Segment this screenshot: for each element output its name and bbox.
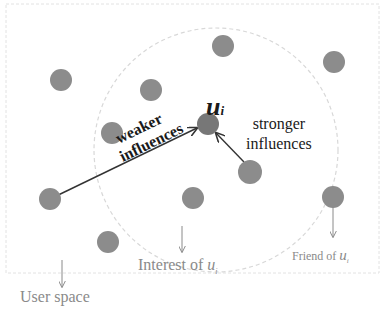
stronger-influences-label: stronger influences: [246, 114, 312, 154]
user-node: [212, 35, 234, 57]
friend-label: Friend of ui: [292, 247, 349, 265]
friend-node-strong: [238, 160, 262, 184]
friend-node: [322, 186, 344, 208]
center-node-var: u: [206, 92, 220, 121]
stronger-label-line1: stronger: [246, 114, 312, 134]
interest-label-sub: i: [215, 267, 217, 276]
user-space-box: [6, 4, 379, 273]
user-node: [182, 187, 204, 209]
user-space-label: User space: [20, 288, 90, 306]
interest-label-text: Interest of: [138, 256, 207, 273]
friend-label-sub: i: [347, 257, 349, 265]
user-node: [323, 51, 345, 73]
user-node-weak: [39, 188, 61, 210]
friend-label-var: u: [339, 247, 347, 263]
stronger-influence-arrow: [216, 133, 244, 162]
center-node-subscript: i: [220, 103, 224, 118]
stronger-label-line2: influences: [246, 134, 312, 154]
user-node: [140, 79, 162, 101]
user-node: [50, 69, 72, 91]
interest-label: Interest of ui: [138, 256, 218, 276]
user-node: [97, 231, 119, 253]
friend-label-text: Friend of: [292, 249, 339, 263]
center-node-label: ui: [206, 92, 224, 122]
